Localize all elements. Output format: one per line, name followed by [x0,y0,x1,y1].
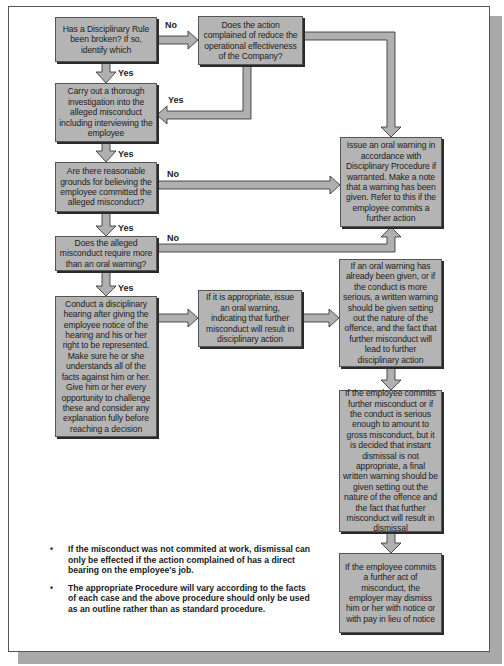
arrow-grounds-to-require-more [96,212,116,236]
box-rule-broken: Has a Disciplinary Rule been broken? If … [55,17,157,62]
arrow-rule-to-effectiveness [157,31,198,49]
label-no-require-more: No [167,233,179,243]
arrow-hearing-to-issue-oral [157,309,198,327]
box-written-warning: If an oral warning has already been give… [339,259,442,367]
label-yes-require-more: Yes [118,283,134,293]
label-yes-grounds: Yes [118,223,134,233]
arrow-issue-oral-to-written [302,309,339,327]
arrow-final-to-dismissal [381,532,401,553]
box-issue-oral-if-appropriate: If it is appropriate, issue an oral warn… [198,290,302,347]
note-text: The appropriate Procedure will vary acco… [68,583,310,614]
label-yes-rule: Yes [118,68,134,78]
arrow-effectiveness-to-oral-warning [303,32,401,137]
label-yes-effectiveness: Yes [168,95,184,105]
arrow-rule-to-investigate [96,62,116,83]
box-final-warning: If the employee commits further miscondu… [339,390,442,532]
box-reasonable-grounds: Are there reasonable grounds for believi… [55,162,157,212]
label-no-rule: No [165,20,177,30]
box-require-more: Does the alleged misconduct require more… [55,236,157,271]
box-oral-warning: Issue an oral warning in accordance with… [340,137,442,227]
bullet-icon: • [50,583,53,594]
box-investigate: Carry out a thorough investigation into … [55,83,157,142]
box-dismissal: If the employee commits a further act of… [339,553,442,633]
note-item: • The appropriate Procedure will vary ac… [50,583,315,615]
notes-list: • If the misconduct was not commited at … [50,544,315,622]
bullet-icon: • [50,544,53,555]
box-reduce-effectiveness: Does the action complained of reduce the… [198,16,303,65]
arrow-investigate-to-grounds [96,142,116,162]
note-text: If the misconduct was not commited at wo… [68,544,310,575]
arrow-require-more-to-oral-warning [157,227,401,252]
arrow-require-more-to-hearing [96,271,116,296]
arrow-grounds-to-oral-warning [157,176,340,194]
arrow-written-to-final [381,367,401,390]
box-hearing: Conduct a disciplinary hearing after giv… [55,296,157,437]
note-item: • If the misconduct was not commited at … [50,544,315,576]
label-yes-investigate: Yes [118,149,134,159]
label-no-grounds: No [167,169,179,179]
